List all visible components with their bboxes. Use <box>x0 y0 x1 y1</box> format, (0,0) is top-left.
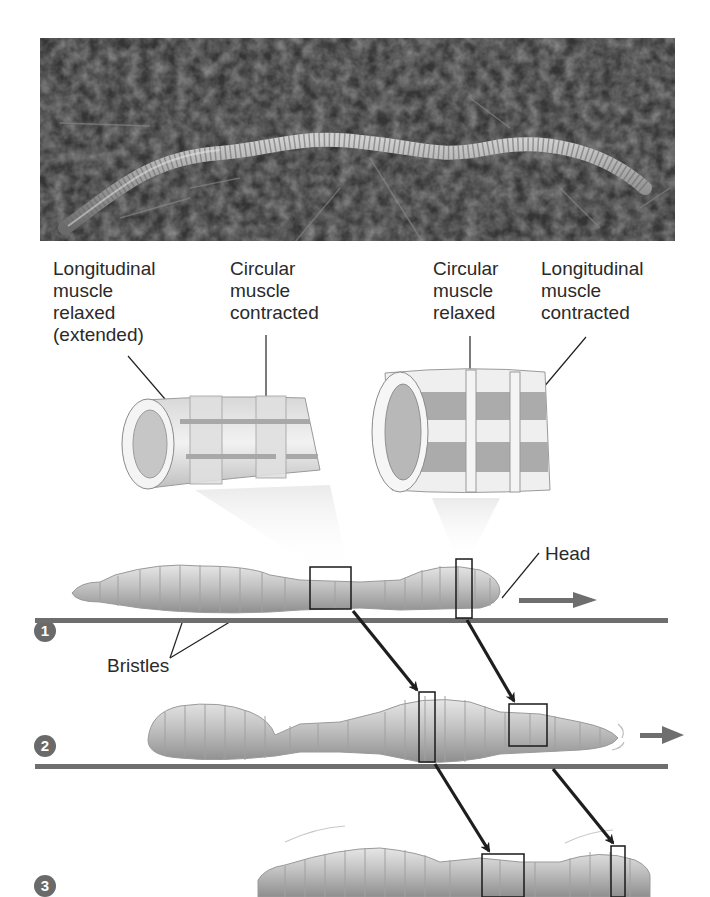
motion-arrow-1-icon <box>519 592 597 608</box>
worm-step-1 <box>72 559 500 618</box>
muscle-tube-extended <box>122 396 320 489</box>
ground-line-1 <box>35 618 668 623</box>
worm-step-3 <box>258 826 650 897</box>
worm-step-2 <box>148 692 624 762</box>
zoom-beam-left <box>195 485 348 568</box>
muscle-tube-contracted <box>372 369 550 493</box>
zoom-beam-right <box>432 498 500 562</box>
motion-arrow-2-icon <box>640 726 684 744</box>
ground-line-2 <box>35 764 668 769</box>
peristalsis-diagram <box>0 0 710 897</box>
